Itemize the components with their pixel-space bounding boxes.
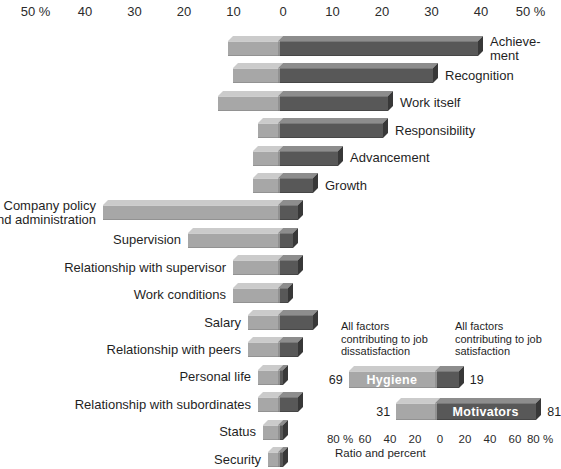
herzberg-two-factor-chart: 50 %4030201001020304050 % Achieve-mentRe… xyxy=(0,0,561,469)
main-axis-tick-9: 40 xyxy=(474,4,488,19)
bar-work-itself xyxy=(218,96,388,111)
bar-recognition-side-face xyxy=(433,63,438,83)
bar-relationship-with-peers xyxy=(248,342,298,357)
inset-axis-tick-6: 40 xyxy=(484,433,497,445)
bar-relationship-with-subordinates-front-face xyxy=(258,397,298,412)
main-axis-tick-7: 20 xyxy=(375,4,389,19)
bar-security-front-hygiene xyxy=(268,452,278,467)
inset-bar-motivators-side-face xyxy=(536,398,541,420)
bar-status-front-motivator xyxy=(278,425,283,440)
main-axis-tick-3: 20 xyxy=(177,4,191,19)
inset-left-header: All factors contributing to job dissatis… xyxy=(341,320,440,358)
main-axis-tick-6: 10 xyxy=(325,4,339,19)
bar-salary-front-motivator xyxy=(278,315,313,330)
bar-relationship-with-subordinates-side-face xyxy=(298,392,303,412)
main-axis-tick-2: 30 xyxy=(127,4,141,19)
label-personal-life: Personal life xyxy=(179,370,251,385)
label-relationship-with-peers: Relationship with peers xyxy=(107,343,241,358)
bar-recognition-front-motivator xyxy=(278,68,433,83)
inset-bar-motivators-front-face: Motivators xyxy=(396,403,536,420)
bar-growth-front-face xyxy=(253,178,313,193)
bar-responsibility-front-face xyxy=(258,123,383,138)
bar-status-front-face xyxy=(263,425,283,440)
inset-left-value-motivators: 31 xyxy=(376,405,390,419)
bar-company-policy-and-administration xyxy=(103,205,298,220)
bar-salary-front-hygiene xyxy=(248,315,278,330)
inset-segment-label-motivators: Motivators xyxy=(435,403,536,420)
label-relationship-with-supervisor: Relationship with supervisor xyxy=(64,260,226,275)
bar-relationship-with-peers-front-motivator xyxy=(278,342,298,357)
main-axis-tick-10: 50 % xyxy=(516,4,546,19)
bar-status-side-face xyxy=(283,420,288,440)
inset-bar-motivators-front-hygiene xyxy=(396,403,435,420)
bar-relationship-with-supervisor-front-motivator xyxy=(278,260,298,275)
bar-security-front-face xyxy=(268,452,283,467)
bar-company-policy-and-administration-front-hygiene xyxy=(103,205,278,220)
bar-supervision-front-hygiene xyxy=(188,233,278,248)
bar-work-conditions-front-motivator xyxy=(278,288,288,303)
bar-advancement-front-face xyxy=(253,151,338,166)
inset-axis-tick-0: 80 % xyxy=(327,433,353,445)
bar-status xyxy=(263,425,283,440)
bar-work-conditions xyxy=(233,288,288,303)
label-work-itself: Work itself xyxy=(400,96,460,111)
label-relationship-with-subordinates: Relationship with subordinates xyxy=(75,397,251,412)
bar-supervision xyxy=(188,233,293,248)
bar-growth-front-hygiene xyxy=(253,178,278,193)
bar-relationship-with-peers-front-hygiene xyxy=(248,342,278,357)
main-axis-tick-5: 0 xyxy=(279,4,286,19)
bar-growth-side-face xyxy=(313,173,318,193)
bar-recognition-front-hygiene xyxy=(233,68,278,83)
bar-advancement-side-face xyxy=(338,146,343,166)
bar-work-itself-front-hygiene xyxy=(218,96,278,111)
label-growth: Growth xyxy=(325,178,367,193)
bar-work-itself-front-face xyxy=(218,96,388,111)
bar-relationship-with-peers-side-face xyxy=(298,337,303,357)
bar-responsibility-front-motivator xyxy=(278,123,383,138)
inset-bar-hygiene-front-motivator xyxy=(435,371,459,388)
bar-personal-life xyxy=(258,370,283,385)
bar-recognition xyxy=(233,68,433,83)
label-achievement: Achieve-ment xyxy=(490,34,541,63)
bar-achievement xyxy=(228,41,478,56)
bar-salary xyxy=(248,315,313,330)
bar-work-conditions-side-face xyxy=(288,283,293,303)
bar-supervision-front-motivator xyxy=(278,233,293,248)
label-company-policy-and-administration: Company policyand administration xyxy=(0,198,96,227)
label-responsibility: Responsibility xyxy=(395,123,475,138)
inset-axis-tick-2: 40 xyxy=(384,433,397,445)
inset-axis-tick-5: 20 xyxy=(459,433,472,445)
inset-bar-hygiene-side-face xyxy=(459,366,464,388)
inset-axis-tick-3: 20 xyxy=(409,433,422,445)
inset-segment-label-hygiene: Hygiene xyxy=(349,371,435,388)
inset-axis-tick-1: 60 xyxy=(359,433,372,445)
label-recognition: Recognition xyxy=(445,69,514,84)
inset-bar-motivators: Motivators xyxy=(396,403,536,420)
label-status: Status xyxy=(219,425,256,440)
bar-personal-life-side-face xyxy=(283,365,288,385)
bar-growth-front-motivator xyxy=(278,178,313,193)
main-axis-tick-1: 40 xyxy=(78,4,92,19)
bar-achievement-side-face xyxy=(478,36,483,56)
bar-achievement-front-face xyxy=(228,41,478,56)
inset-bar-hygiene: Hygiene xyxy=(349,371,459,388)
bar-company-policy-and-administration-side-face xyxy=(298,200,303,220)
bar-personal-life-front-motivator xyxy=(278,370,283,385)
bar-personal-life-front-hygiene xyxy=(258,370,278,385)
main-axis-tick-4: 10 xyxy=(226,4,240,19)
bar-recognition-front-face xyxy=(233,68,433,83)
label-security: Security xyxy=(214,452,261,467)
bar-achievement-front-motivator xyxy=(278,41,478,56)
bar-salary-front-face xyxy=(248,315,313,330)
bar-security xyxy=(268,452,283,467)
inset-bar-hygiene-front-hygiene: Hygiene xyxy=(349,371,435,388)
inset-right-value-hygiene: 19 xyxy=(470,373,484,387)
inset-bar-hygiene-front-face: Hygiene xyxy=(349,371,459,388)
main-axis-tick-0: 50 % xyxy=(21,4,51,19)
bar-supervision-front-face xyxy=(188,233,293,248)
inset-axis-tick-4: 0 xyxy=(437,433,443,445)
bar-company-policy-and-administration-front-motivator xyxy=(278,205,298,220)
inset-right-header: All factors contributing to job satisfac… xyxy=(455,320,554,358)
bar-security-front-motivator xyxy=(278,452,283,467)
bar-work-conditions-front-hygiene xyxy=(233,288,278,303)
